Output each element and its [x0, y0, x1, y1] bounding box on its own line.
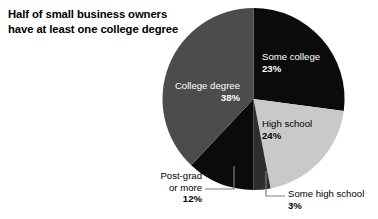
pie-label-post-grad: Post-grad or more 12%: [136, 170, 202, 205]
pie-label-college-degree-value: 38%: [151, 92, 240, 104]
pie-label-some-college: Some college 23%: [262, 51, 320, 75]
pie-label-college-degree: College degree 38%: [151, 80, 240, 104]
pie-chart-figure: Half of small business owners have at le…: [0, 0, 378, 219]
pie-label-college-degree-name: College degree: [151, 80, 240, 92]
pie-label-high-school: High school 24%: [262, 118, 312, 142]
pie-label-some-college-name: Some college: [262, 51, 320, 63]
pie-label-some-high-school-name: Some high school: [288, 188, 364, 200]
pie-label-high-school-value: 24%: [262, 130, 312, 142]
pie-label-post-grad-value: 12%: [136, 193, 202, 205]
pie-label-high-school-name: High school: [262, 118, 312, 130]
pie-label-some-high-school-value: 3%: [288, 200, 364, 212]
pie-label-post-grad-name: Post-grad or more: [136, 170, 202, 193]
pie-label-some-high-school: Some high school 3%: [288, 188, 364, 212]
pie-label-some-college-value: 23%: [262, 63, 320, 75]
